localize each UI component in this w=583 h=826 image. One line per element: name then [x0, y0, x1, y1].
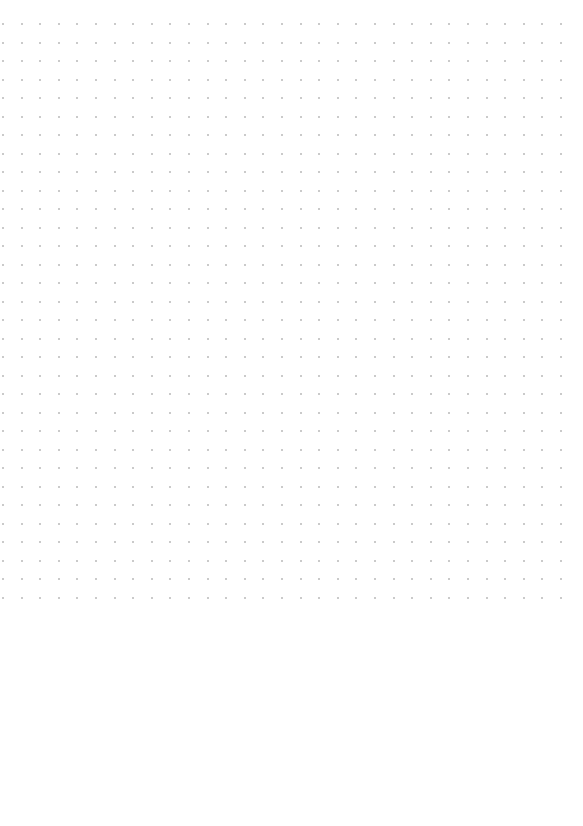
grid-dot [430, 301, 432, 303]
grid-dot [430, 393, 432, 395]
grid-dot [541, 60, 543, 62]
grid-dot [244, 597, 246, 599]
grid-dot [262, 430, 264, 432]
grid-dot [318, 560, 320, 562]
grid-dot [225, 282, 227, 284]
grid-dot [411, 227, 413, 229]
grid-dot [430, 23, 432, 25]
grid-dot [262, 60, 264, 62]
grid-dot [262, 319, 264, 321]
grid-dot [2, 578, 4, 580]
grid-dot [448, 319, 450, 321]
grid-dot [374, 467, 376, 469]
grid-dot [523, 597, 525, 599]
grid-dot [39, 23, 41, 25]
grid-dot [169, 486, 171, 488]
grid-dot [411, 504, 413, 506]
grid-dot [560, 245, 562, 247]
grid-dot [504, 486, 506, 488]
grid-dot [95, 319, 97, 321]
grid-dot [355, 79, 357, 81]
grid-dot [39, 560, 41, 562]
grid-dot [467, 541, 469, 543]
grid-dot [225, 79, 227, 81]
grid-dot [374, 282, 376, 284]
grid-dot [207, 541, 209, 543]
grid-dot [95, 60, 97, 62]
grid-dot [300, 504, 302, 506]
grid-dot [523, 282, 525, 284]
grid-dot [225, 23, 227, 25]
grid-dot [523, 393, 525, 395]
grid-dot [504, 319, 506, 321]
grid-dot [95, 393, 97, 395]
grid-dot [225, 97, 227, 99]
grid-dot [281, 134, 283, 136]
grid-dot [523, 486, 525, 488]
grid-dot [467, 79, 469, 81]
grid-dot [504, 578, 506, 580]
grid-dot [207, 578, 209, 580]
grid-dot [2, 116, 4, 118]
grid-dot [58, 578, 60, 580]
grid-dot [486, 190, 488, 192]
grid-dot [169, 42, 171, 44]
grid-dot [300, 319, 302, 321]
grid-dot [355, 227, 357, 229]
grid-dot [207, 504, 209, 506]
grid-dot [281, 97, 283, 99]
grid-dot [467, 171, 469, 173]
grid-dot [411, 60, 413, 62]
grid-dot [169, 116, 171, 118]
grid-dot [76, 264, 78, 266]
grid-dot [448, 449, 450, 451]
grid-dot [523, 541, 525, 543]
grid-dot [132, 282, 134, 284]
grid-dot [300, 356, 302, 358]
grid-dot [393, 116, 395, 118]
grid-dot [169, 227, 171, 229]
grid-dot [504, 338, 506, 340]
grid-dot [244, 430, 246, 432]
grid-dot [467, 42, 469, 44]
grid-dot [504, 153, 506, 155]
grid-dot [244, 79, 246, 81]
grid-dot [523, 301, 525, 303]
grid-dot [467, 264, 469, 266]
grid-dot [207, 412, 209, 414]
grid-dot [281, 245, 283, 247]
grid-dot [430, 467, 432, 469]
grid-dot [188, 97, 190, 99]
grid-dot [21, 134, 23, 136]
grid-dot [486, 338, 488, 340]
grid-dot [430, 412, 432, 414]
grid-dot [300, 467, 302, 469]
grid-dot [207, 153, 209, 155]
grid-dot [560, 134, 562, 136]
grid-dot [95, 504, 97, 506]
grid-dot [486, 116, 488, 118]
grid-dot [114, 393, 116, 395]
grid-dot [2, 282, 4, 284]
grid-dot [355, 486, 357, 488]
grid-dot [39, 504, 41, 506]
grid-dot [281, 375, 283, 377]
grid-dot [411, 430, 413, 432]
grid-dot [411, 79, 413, 81]
grid-dot [207, 60, 209, 62]
grid-dot [95, 116, 97, 118]
grid-dot [560, 597, 562, 599]
grid-dot [560, 227, 562, 229]
grid-dot [541, 264, 543, 266]
grid-dot [486, 301, 488, 303]
grid-dot [188, 264, 190, 266]
grid-dot [262, 208, 264, 210]
grid-dot [207, 560, 209, 562]
grid-dot [169, 412, 171, 414]
grid-dot [374, 116, 376, 118]
grid-dot [374, 79, 376, 81]
grid-dot [132, 504, 134, 506]
grid-dot [504, 245, 506, 247]
grid-dot [132, 264, 134, 266]
grid-dot [76, 23, 78, 25]
